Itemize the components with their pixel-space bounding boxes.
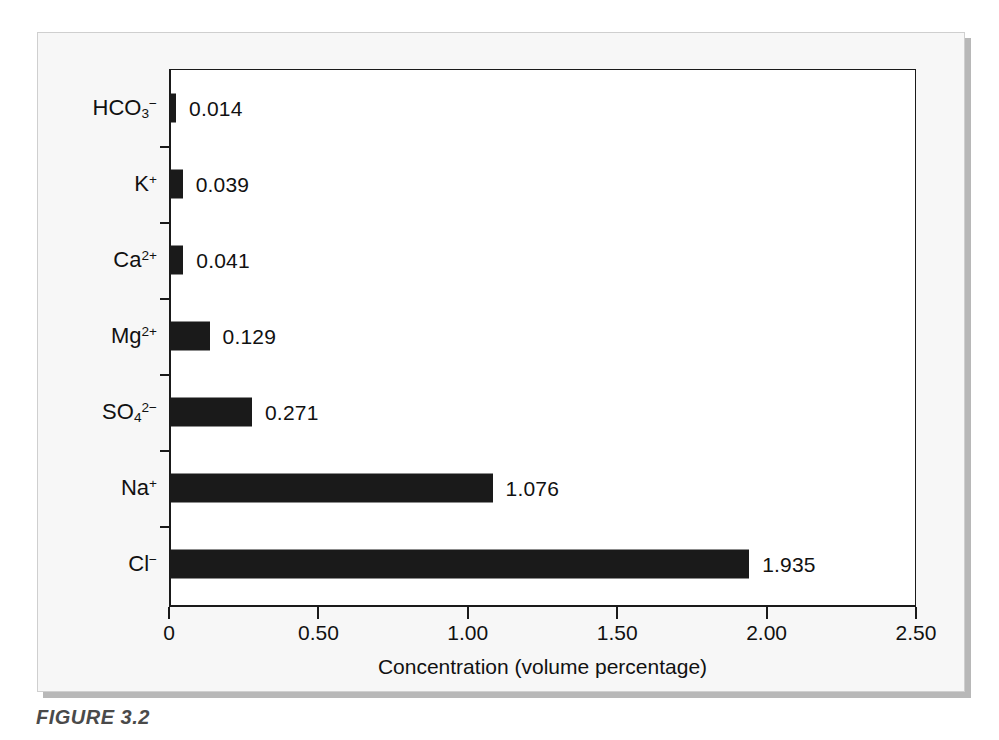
bar-row: Cl−1.935 (171, 526, 915, 602)
category-label: Na+ (121, 477, 157, 499)
figure-caption: FIGURE 3.2 (36, 706, 150, 729)
bar-row: K+0.039 (171, 146, 915, 222)
x-axis-tick-label: 1.00 (447, 621, 488, 645)
bar-value-label: 0.039 (196, 172, 250, 196)
bar (171, 474, 493, 503)
y-axis-tick (160, 222, 171, 224)
x-axis-tick-label: 1.50 (597, 621, 638, 645)
category-label: Mg2+ (111, 325, 157, 347)
bar-value-label: 0.271 (265, 400, 319, 424)
x-axis-tick (168, 607, 170, 619)
bar (171, 246, 183, 275)
x-axis-tick (766, 607, 768, 619)
x-axis-tick-label: 0.50 (298, 621, 339, 645)
bar-row: Mg2+0.129 (171, 298, 915, 374)
category-label: SO42− (102, 401, 157, 423)
y-axis-tick (160, 450, 171, 452)
x-axis-tick (467, 607, 469, 619)
x-axis-tick-label: 2.00 (746, 621, 787, 645)
x-axis-tick (915, 607, 917, 619)
category-label: HCO3− (93, 97, 157, 119)
bar-value-label: 0.041 (196, 248, 250, 272)
y-axis-tick (160, 146, 171, 148)
x-axis-tick (317, 607, 319, 619)
y-axis-tick (160, 526, 171, 528)
y-axis-tick (160, 374, 171, 376)
x-axis-ticks (169, 607, 916, 619)
bar-value-label: 0.014 (189, 96, 243, 120)
figure-panel: HCO3−0.014K+0.039Ca2+0.041Mg2+0.129SO42−… (37, 32, 965, 692)
category-label: K+ (134, 173, 157, 195)
bar-value-label: 1.935 (762, 552, 816, 576)
bar-value-label: 1.076 (506, 476, 560, 500)
bar-row: Ca2+0.041 (171, 222, 915, 298)
x-axis-tick-labels: 00.501.001.502.002.50 (169, 621, 916, 651)
y-axis-tick (160, 298, 171, 300)
bar-row: Na+1.076 (171, 450, 915, 526)
x-axis-tick-label: 0 (163, 621, 175, 645)
x-axis-tick (616, 607, 618, 619)
bar (171, 550, 749, 579)
category-label: Cl− (128, 553, 157, 575)
x-axis-title: Concentration (volume percentage) (169, 655, 916, 679)
category-label: Ca2+ (113, 249, 157, 271)
bar (171, 170, 183, 199)
x-axis-tick-label: 2.50 (896, 621, 937, 645)
bar (171, 94, 176, 123)
bar-row: SO42−0.271 (171, 374, 915, 450)
bar (171, 398, 252, 427)
bar-row: HCO3−0.014 (171, 70, 915, 146)
bar-value-label: 0.129 (223, 324, 277, 348)
bar (171, 322, 210, 351)
plot-area: HCO3−0.014K+0.039Ca2+0.041Mg2+0.129SO42−… (169, 69, 916, 607)
